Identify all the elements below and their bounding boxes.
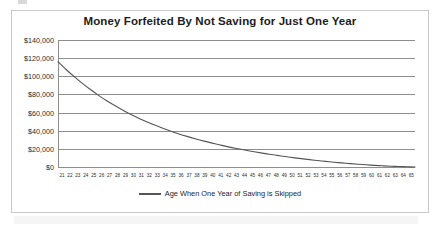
x-axis-tick-label: 49 [280, 171, 288, 181]
gridline [58, 167, 415, 168]
x-axis-tick-label: 36 [177, 171, 185, 181]
x-axis-tick-label: 31 [137, 171, 145, 181]
x-axis-tick-label: 30 [129, 171, 137, 181]
y-axis-tick-label: $40,000 [28, 126, 54, 135]
x-axis-tick-label: 41 [217, 171, 225, 181]
x-axis-tick-label: 54 [320, 171, 328, 181]
x-axis-tick-label: 25 [90, 171, 98, 181]
chart-title: Money Forfeited By Not Saving for Just O… [12, 15, 428, 27]
x-axis-tick-label: 35 [169, 171, 177, 181]
x-axis-tick-label: 62 [383, 171, 391, 181]
x-axis-tick-label: 61 [376, 171, 384, 181]
x-axis-labels: 2122232425262728293031323334353637383940… [58, 171, 415, 181]
x-axis-tick-label: 43 [233, 171, 241, 181]
y-axis-tick-label: $100,000 [24, 72, 54, 81]
x-axis-tick-label: 65 [407, 171, 415, 181]
x-axis-tick-label: 23 [74, 171, 82, 181]
x-axis-tick-label: 22 [66, 171, 74, 181]
y-axis-tick-label: $60,000 [28, 108, 54, 117]
x-axis-tick-label: 32 [145, 171, 153, 181]
scan-artifact-top [18, 0, 27, 4]
chart-frame: Money Forfeited By Not Saving for Just O… [11, 10, 429, 213]
y-axis-tick-label: $80,000 [28, 90, 54, 99]
x-axis-tick-label: 42 [225, 171, 233, 181]
x-axis-tick-label: 60 [368, 171, 376, 181]
x-axis-tick-label: 38 [193, 171, 201, 181]
series-line-chart [58, 40, 415, 167]
x-axis-tick-label: 33 [153, 171, 161, 181]
x-axis-tick-label: 47 [264, 171, 272, 181]
x-axis-tick-label: 63 [391, 171, 399, 181]
y-axis-tick-label: $0 [46, 163, 54, 172]
x-axis-tick-label: 55 [328, 171, 336, 181]
y-axis-tick-label: $120,000 [24, 54, 54, 63]
x-axis-tick-label: 58 [352, 171, 360, 181]
x-axis-tick-label: 28 [114, 171, 122, 181]
x-axis-tick-label: 26 [98, 171, 106, 181]
legend-line-marker [139, 193, 161, 195]
x-axis-tick-label: 51 [296, 171, 304, 181]
x-axis-tick-label: 56 [336, 171, 344, 181]
x-axis-tick-label: 57 [344, 171, 352, 181]
x-axis-tick-label: 64 [399, 171, 407, 181]
x-axis-tick-label: 50 [288, 171, 296, 181]
x-axis-tick-label: 27 [106, 171, 114, 181]
x-axis-tick-label: 52 [304, 171, 312, 181]
y-axis-tick-label: $140,000 [24, 36, 54, 45]
x-axis-tick-label: 53 [312, 171, 320, 181]
x-axis-tick-label: 48 [272, 171, 280, 181]
series-path-age-when-one-year-of-saving-is-skipped [58, 62, 415, 167]
x-axis-tick-label: 59 [360, 171, 368, 181]
y-axis-tick-label: $20,000 [28, 144, 54, 153]
x-axis-tick-label: 39 [201, 171, 209, 181]
x-axis-tick-label: 21 [58, 171, 66, 181]
x-axis-tick-label: 37 [185, 171, 193, 181]
x-axis-tick-label: 44 [241, 171, 249, 181]
plot-area: $140,000$120,000$100,000$80,000$60,000$4… [58, 40, 415, 167]
x-axis-tick-label: 24 [82, 171, 90, 181]
x-axis-tick-label: 45 [249, 171, 257, 181]
legend-label: Age When One Year of Saving is Skipped [165, 189, 301, 198]
x-axis-tick-label: 29 [122, 171, 130, 181]
x-axis-tick-label: 40 [209, 171, 217, 181]
x-axis-tick-label: 46 [256, 171, 264, 181]
x-axis-tick-label: 34 [161, 171, 169, 181]
chart-legend: Age When One Year of Saving is Skipped [12, 189, 428, 198]
scan-artifact-bottom [14, 216, 418, 224]
